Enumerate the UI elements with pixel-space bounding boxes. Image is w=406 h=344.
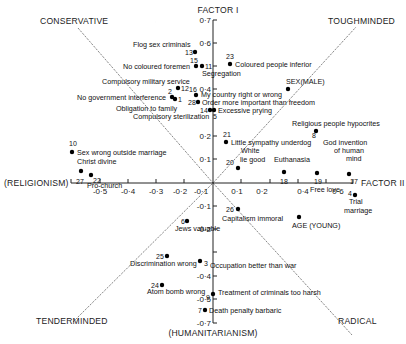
svg-text:2: 2 (168, 88, 172, 95)
svg-text:Coloured people inferior: Coloured people inferior (235, 60, 312, 69)
point-age (297, 215, 301, 219)
diagram-canvas: FACTOR I FACTOR II (RELIGIONISM) (HUMANI… (0, 0, 406, 344)
point-17 (347, 172, 351, 176)
religionism-label: (RELIGIONISM) (4, 178, 69, 188)
svg-text:26: 26 (226, 206, 234, 213)
svg-text:20: 20 (226, 159, 234, 166)
svg-text:27: 27 (76, 178, 84, 185)
svg-text:-0·2: -0·2 (173, 187, 188, 196)
svg-text:No government interference: No government interference (77, 93, 166, 102)
point-27 (79, 169, 83, 173)
svg-text:Capitalism immoral: Capitalism immoral (222, 214, 284, 223)
svg-text:lie good: lie good (240, 155, 265, 164)
point-19 (315, 171, 319, 175)
svg-text:19: 19 (314, 178, 322, 185)
svg-text:AGE (YOUNG): AGE (YOUNG) (292, 221, 340, 230)
toughminded-label: TOUGHMINDED (328, 16, 395, 26)
factor1-label: FACTOR I (197, 5, 238, 15)
svg-text:0·7: 0·7 (199, 16, 211, 25)
svg-text:Treatment of criminals too har: Treatment of criminals too harsh (218, 288, 321, 297)
svg-text:17: 17 (350, 178, 358, 185)
point-1 (173, 97, 177, 101)
point-12 (176, 86, 180, 90)
point-11 (200, 64, 204, 68)
factor-diagram: FACTOR I FACTOR II (RELIGIONISM) (HUMANI… (0, 0, 406, 344)
svg-text:-0·4: -0·4 (197, 272, 212, 281)
svg-text:Flog sex criminals: Flog sex criminals (133, 40, 191, 49)
svg-text:-0·3: -0·3 (149, 187, 164, 196)
point-18 (282, 170, 286, 174)
svg-text:3: 3 (204, 260, 208, 267)
svg-text:No coloured foremen: No coloured foremen (123, 62, 190, 71)
svg-text:-0·1: -0·1 (197, 202, 212, 211)
point-3 (198, 259, 202, 263)
svg-text:28: 28 (188, 99, 196, 106)
svg-text:12: 12 (181, 85, 189, 92)
point-7 (203, 308, 207, 312)
point-21 (224, 140, 228, 144)
conservative-label: CONSERVATIVE (40, 16, 108, 26)
point-sex (286, 87, 290, 91)
svg-text:Trial: Trial (349, 197, 363, 206)
svg-text:Compulsory military service: Compulsory military service (102, 77, 190, 86)
point-9 (211, 292, 215, 296)
svg-text:Death penalty barbaric: Death penalty barbaric (209, 306, 282, 315)
point-16 (194, 93, 198, 97)
point-20 (236, 166, 240, 170)
svg-text:18: 18 (280, 178, 288, 185)
svg-text:5: 5 (213, 113, 217, 120)
point-15 (194, 64, 198, 68)
point-13 (193, 50, 197, 54)
svg-text:-0·1: -0·1 (194, 187, 209, 196)
point-labels: Flog sex criminals No coloured foremen S… (77, 40, 380, 315)
svg-text:Free love: Free love (310, 185, 340, 194)
svg-text:23: 23 (226, 53, 234, 60)
humanitarianism-label: (HUMANITARIANISM) (168, 328, 257, 338)
svg-text:Compulsory sterilization: Compulsory sterilization (133, 112, 209, 121)
svg-text:21: 21 (223, 131, 231, 138)
svg-text:-0·4: -0·4 (121, 187, 136, 196)
svg-text:SEX(MALE): SEX(MALE) (286, 77, 325, 86)
svg-text:Segregation: Segregation (202, 69, 241, 78)
x-tick-labels: -0·5 -0·4 -0·3 -0·2 -0·1 0·1 0·2 0·4 0·6 (93, 187, 344, 196)
tenderminded-axis (73, 183, 213, 322)
svg-text:0·2: 0·2 (256, 187, 268, 196)
svg-text:1: 1 (178, 96, 182, 103)
point-5 (212, 108, 216, 112)
svg-text:0·1: 0·1 (231, 187, 243, 196)
svg-text:Sex wrong outside marriage: Sex wrong outside marriage (77, 148, 167, 157)
svg-text:Discrimination wrong: Discrimination wrong (130, 259, 197, 268)
svg-text:15: 15 (190, 57, 198, 64)
svg-text:0·1: 0·1 (199, 155, 211, 164)
svg-text:9: 9 (206, 294, 210, 301)
svg-text:Occupation better than war: Occupation better than war (210, 261, 297, 270)
svg-text:Excessive prying: Excessive prying (218, 106, 272, 115)
point-23 (228, 62, 232, 66)
svg-text:Pro-church: Pro-church (87, 181, 122, 190)
svg-text:10: 10 (69, 140, 77, 147)
svg-text:mind: mind (346, 154, 362, 163)
point-28 (196, 100, 200, 104)
svg-text:Euthanasia: Euthanasia (274, 155, 310, 164)
svg-text:Religious people hypocrites: Religious people hypocrites (292, 119, 380, 128)
svg-text:16: 16 (189, 86, 197, 93)
svg-text:0·6: 0·6 (199, 39, 211, 48)
svg-text:8: 8 (312, 132, 316, 139)
svg-text:Jews valuable: Jews valuable (175, 224, 220, 233)
tenderminded-label: TENDERMINDED (36, 316, 108, 326)
point-26 (236, 207, 240, 211)
svg-text:13: 13 (185, 49, 193, 56)
radical-label: RADICAL (338, 316, 377, 326)
svg-text:Christ divine: Christ divine (77, 157, 117, 166)
point-6 (185, 219, 189, 223)
svg-text:Atom bomb wrong: Atom bomb wrong (147, 287, 205, 296)
svg-text:0·4: 0·4 (297, 187, 309, 196)
factor2-label: FACTOR II (361, 178, 405, 188)
point-25 (165, 254, 169, 258)
point-10 (70, 150, 74, 154)
svg-text:White: White (241, 146, 259, 155)
svg-text:-0·7: -0·7 (197, 319, 212, 328)
svg-text:marriage: marriage (344, 206, 372, 215)
svg-text:0·2: 0·2 (199, 132, 211, 141)
svg-text:7: 7 (198, 307, 202, 314)
